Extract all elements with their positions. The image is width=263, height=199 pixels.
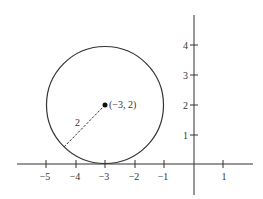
radius-line [64, 105, 105, 147]
y-tick-labels: 1 2 3 4 [183, 40, 188, 141]
coordinate-diagram: −5 −4 −3 −2 −1 1 1 2 3 4 2 (−3, 2) [0, 0, 263, 199]
x-tick-label: −5 [40, 171, 51, 182]
radius-label: 2 [75, 117, 80, 128]
x-tick-label: −1 [158, 171, 169, 182]
y-tick-label: 1 [183, 130, 188, 141]
x-tick-label: −2 [129, 171, 140, 182]
x-tick-label: −3 [99, 171, 110, 182]
center-point [103, 103, 108, 108]
x-tick-labels: −5 −4 −3 −2 −1 1 [40, 171, 227, 182]
y-tick-label: 3 [183, 70, 188, 81]
center-label: (−3, 2) [109, 99, 136, 111]
x-tick-label: 1 [222, 171, 227, 182]
y-tick-label: 2 [183, 100, 188, 111]
y-tick-label: 4 [183, 40, 188, 51]
x-tick-label: −4 [70, 171, 81, 182]
